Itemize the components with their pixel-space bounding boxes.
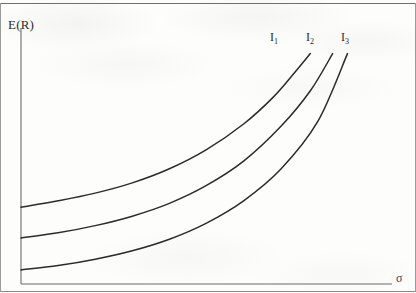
x-axis-label: σ <box>396 272 402 284</box>
curve-label-i1: I1 <box>270 31 278 46</box>
indifference-curve-figure: E(R) σ I1 I2 I3 <box>0 0 416 293</box>
y-axis-label: E(R) <box>8 18 34 31</box>
indifference-curve-i1 <box>21 54 310 208</box>
curves-group <box>21 54 347 270</box>
curve-label-i2: I2 <box>306 31 314 46</box>
indifference-curve-i2 <box>21 54 333 238</box>
curve-label-i1-sub: 1 <box>274 37 278 46</box>
plot-area <box>0 0 416 293</box>
curve-label-i3-sub: 3 <box>345 37 349 46</box>
curve-label-i2-sub: 2 <box>310 37 314 46</box>
curve-label-i3: I3 <box>341 31 349 46</box>
